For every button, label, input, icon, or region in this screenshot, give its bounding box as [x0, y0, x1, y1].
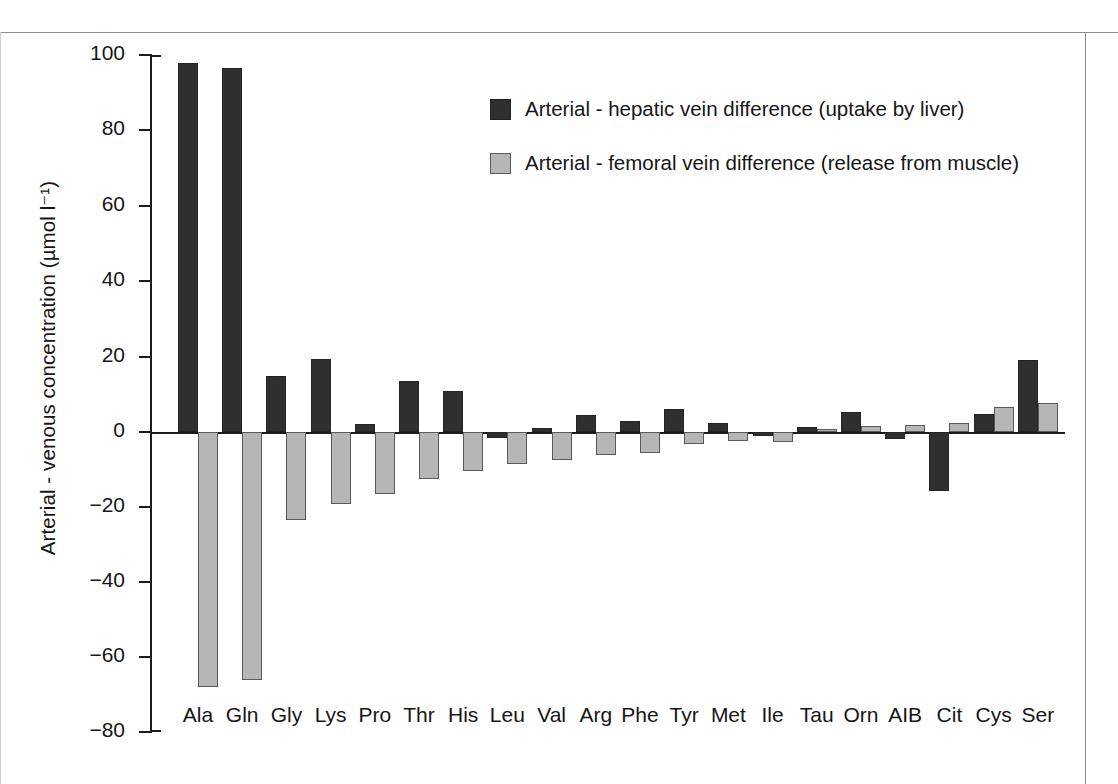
bar-ile-femoral: [773, 432, 793, 442]
y-tick-80: [139, 129, 152, 131]
bar-tau-femoral: [817, 429, 837, 432]
bar-his-femoral: [463, 432, 483, 471]
bar-tyr-hepatic: [664, 409, 684, 432]
legend-label-femoral: Arterial - femoral vein difference (rele…: [525, 151, 1019, 175]
bar-cys-hepatic: [974, 414, 994, 432]
y-tick-60: [139, 205, 152, 207]
bar-tau-hepatic: [797, 427, 817, 432]
figure-canvas: Arterial - venous concentration (µmol l⁻…: [0, 0, 1118, 784]
y-axis-line: [150, 55, 152, 732]
bar-gly-hepatic: [266, 376, 286, 432]
bar-lys-femoral: [331, 432, 351, 504]
bar-ala-hepatic: [178, 63, 198, 432]
bar-leu-hepatic: [487, 432, 507, 438]
bar-val-hepatic: [532, 428, 552, 432]
bar-gln-hepatic: [222, 68, 242, 432]
bar-lys-hepatic: [311, 359, 331, 432]
figure-border-left: [0, 32, 1, 784]
bar-tyr-femoral: [684, 432, 704, 444]
y-tick-0: [139, 431, 152, 433]
bar-met-femoral: [728, 432, 748, 441]
figure-border-right: [1085, 32, 1086, 784]
y-tick-40: [139, 280, 152, 282]
y-tick-neg80: [139, 731, 152, 733]
y-tick-neg40: [139, 581, 152, 583]
y-tick-20: [139, 356, 152, 358]
bar-phe-hepatic: [620, 421, 640, 432]
bar-ser-femoral: [1038, 403, 1058, 432]
legend-label-hepatic: Arterial - hepatic vein difference (upta…: [525, 97, 964, 121]
y-tick-neg60: [139, 656, 152, 658]
x-label-ser: Ser: [1008, 703, 1068, 727]
bar-cys-femoral: [994, 407, 1014, 432]
bar-met-hepatic: [708, 423, 728, 432]
y-tick-label: 0: [20, 418, 125, 442]
bar-thr-hepatic: [399, 381, 419, 432]
bar-phe-femoral: [640, 432, 660, 453]
bar-thr-femoral: [419, 432, 439, 479]
legend-item-hepatic: Arterial - hepatic vein difference (upta…: [490, 97, 1019, 121]
bar-gln-femoral: [242, 432, 262, 680]
bar-cit-hepatic: [929, 432, 949, 491]
y-tick-label: 100: [20, 41, 125, 65]
figure-border-top: [0, 32, 1118, 33]
y-tick-label: 20: [20, 343, 125, 367]
legend-item-femoral: Arterial - femoral vein difference (rele…: [490, 151, 1019, 175]
y-tick-label: −60: [20, 643, 125, 667]
y-axis-title: Arterial - venous concentration (µmol l⁻…: [36, 48, 60, 688]
bar-aib-hepatic: [885, 432, 905, 439]
bar-ala-femoral: [198, 432, 218, 687]
y-tick-label: 40: [20, 267, 125, 291]
bar-pro-femoral: [375, 432, 395, 494]
dark-swatch-icon: [490, 99, 511, 120]
bar-orn-hepatic: [841, 412, 861, 432]
bar-ile-hepatic: [753, 432, 773, 436]
y-tick-label: −20: [20, 493, 125, 517]
bar-orn-femoral: [861, 426, 881, 432]
bar-gly-femoral: [286, 432, 306, 520]
light-swatch-icon: [490, 153, 511, 174]
y-tick-100: [139, 54, 152, 56]
bar-cit-femoral: [949, 423, 969, 432]
bar-ser-hepatic: [1018, 360, 1038, 432]
bar-his-hepatic: [443, 391, 463, 432]
bar-pro-hepatic: [355, 424, 375, 432]
chart-legend: Arterial - hepatic vein difference (upta…: [490, 97, 1019, 205]
y-tick-label: 60: [20, 192, 125, 216]
bar-val-femoral: [552, 432, 572, 460]
bar-arg-hepatic: [576, 415, 596, 432]
y-tick-label: 80: [20, 116, 125, 140]
bar-arg-femoral: [596, 432, 616, 455]
y-tick-neg20: [139, 506, 152, 508]
bar-aib-femoral: [905, 425, 925, 432]
bar-leu-femoral: [507, 432, 527, 464]
y-tick-label: −80: [20, 718, 125, 742]
y-tick-label: −40: [20, 568, 125, 592]
